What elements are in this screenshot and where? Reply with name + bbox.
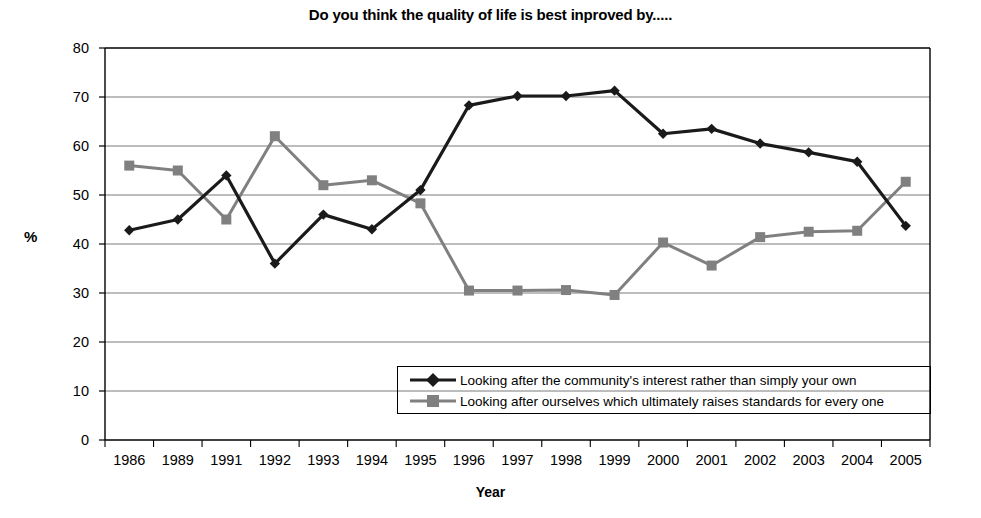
- x-tick-label: 2004: [833, 453, 882, 467]
- data-point-marker: [804, 227, 814, 237]
- data-point-marker: [367, 175, 377, 185]
- data-point-marker: [707, 261, 717, 271]
- data-point-marker: [803, 147, 813, 157]
- x-tick-label: 2001: [687, 453, 736, 467]
- x-tick-label: 1986: [105, 453, 154, 467]
- y-tick-label: 20: [49, 335, 89, 349]
- chart-plot-area: [0, 0, 981, 518]
- y-tick-label: 80: [49, 41, 89, 55]
- data-point-marker: [561, 285, 571, 295]
- data-point-marker: [901, 177, 911, 187]
- x-tick-label: 2003: [784, 453, 833, 467]
- chart-container: Do you think the quality of life is best…: [0, 0, 981, 518]
- data-point-marker: [658, 238, 668, 248]
- x-tick-label: 1994: [348, 453, 397, 467]
- x-axis-title: Year: [0, 484, 981, 500]
- data-point-marker: [561, 91, 571, 101]
- data-point-marker: [415, 198, 425, 208]
- y-tick-label: 0: [49, 433, 89, 447]
- y-tick-label: 10: [49, 384, 89, 398]
- y-tick-label: 40: [49, 237, 89, 251]
- x-tick-label: 1991: [202, 453, 251, 467]
- data-point-marker: [512, 91, 522, 101]
- data-point-marker: [755, 138, 765, 148]
- y-tick-label: 50: [49, 188, 89, 202]
- x-tick-label: 1995: [396, 453, 445, 467]
- data-point-marker: [755, 232, 765, 242]
- x-tick-label: 1996: [445, 453, 494, 467]
- x-tick-label: 2005: [881, 453, 930, 467]
- chart-legend: Looking after the community's interest r…: [397, 366, 931, 414]
- legend-label-community: Looking after the community's interest r…: [460, 373, 857, 388]
- legend-item-community: Looking after the community's interest r…: [406, 369, 857, 391]
- x-tick-label: 1998: [542, 453, 591, 467]
- data-point-marker: [124, 161, 134, 171]
- data-point-marker: [513, 286, 523, 296]
- data-series-layer: [124, 85, 911, 300]
- data-point-marker: [221, 215, 231, 225]
- data-point-marker: [173, 166, 183, 176]
- data-point-marker: [852, 226, 862, 236]
- x-tick-label: 1992: [251, 453, 300, 467]
- data-point-marker: [270, 131, 280, 141]
- x-tick-label: 1999: [590, 453, 639, 467]
- y-tick-label: 70: [49, 90, 89, 104]
- legend-marker-square-icon: [406, 391, 460, 411]
- legend-marker-diamond-icon: [406, 370, 460, 390]
- data-point-marker: [318, 180, 328, 190]
- x-axis-tick-marks: [105, 440, 930, 447]
- x-tick-label: 1993: [299, 453, 348, 467]
- data-point-marker: [464, 286, 474, 296]
- y-tick-label: 60: [49, 139, 89, 153]
- data-point-marker: [124, 225, 134, 235]
- x-tick-label: 2002: [736, 453, 785, 467]
- data-point-marker: [610, 290, 620, 300]
- x-tick-label: 2000: [639, 453, 688, 467]
- series-line: [129, 136, 905, 295]
- legend-item-ourselves: Looking after ourselves which ultimately…: [406, 390, 884, 412]
- legend-label-ourselves: Looking after ourselves which ultimately…: [460, 394, 884, 409]
- x-tick-label: 1997: [493, 453, 542, 467]
- x-tick-label: 1989: [154, 453, 203, 467]
- y-tick-label: 30: [49, 286, 89, 300]
- data-point-marker: [706, 124, 716, 134]
- series-line: [129, 91, 905, 264]
